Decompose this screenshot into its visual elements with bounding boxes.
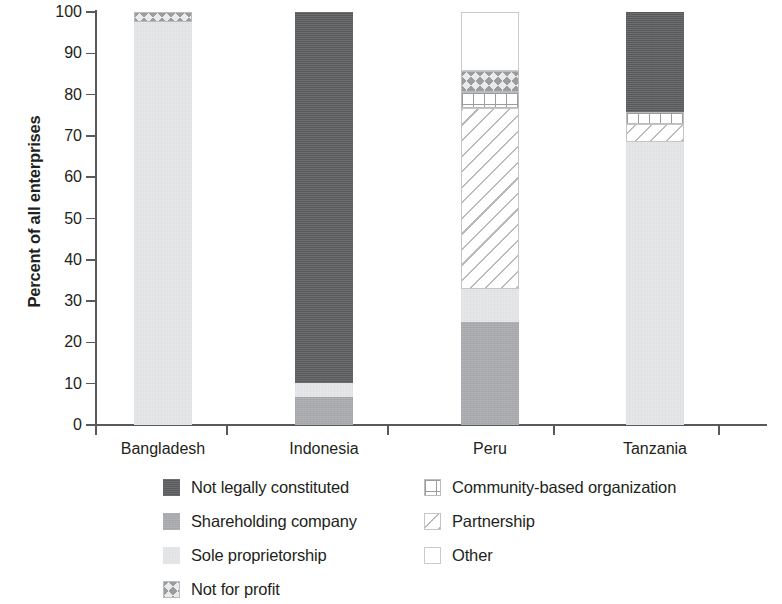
bar-segment xyxy=(461,108,519,289)
legend-swatch-icon xyxy=(163,513,180,530)
legend-item[interactable]: Other xyxy=(424,546,493,565)
y-axis-tick-label: 0 xyxy=(40,416,82,434)
legend-item[interactable]: Partnership xyxy=(424,512,535,531)
y-axis-tick xyxy=(86,135,95,137)
x-axis-tick xyxy=(387,426,389,435)
bar-tanzania xyxy=(626,12,684,425)
y-axis-tick xyxy=(86,342,95,344)
y-axis-tick-label: 60 xyxy=(40,168,82,186)
legend-label: Partnership xyxy=(452,512,535,531)
x-axis-tick xyxy=(718,426,720,435)
chart-legend: Not legally constitutedCommunity-based o… xyxy=(0,470,782,604)
y-axis-tick xyxy=(86,218,95,220)
bar-segment xyxy=(295,397,353,425)
y-axis-tick-label: 40 xyxy=(40,251,82,269)
y-axis-tick-label: 30 xyxy=(40,292,82,310)
x-axis-tick-origin xyxy=(95,426,97,435)
legend-swatch-icon xyxy=(163,547,180,564)
legend-item[interactable]: Not for profit xyxy=(163,580,280,599)
legend-swatch-icon xyxy=(163,581,180,598)
legend-item[interactable]: Sole proprietorship xyxy=(163,546,327,565)
y-axis-tick xyxy=(86,259,95,261)
legend-item[interactable]: Community-based organization xyxy=(424,478,676,497)
bar-segment xyxy=(626,112,684,124)
bar-segment xyxy=(461,71,519,92)
legend-label: Not legally constituted xyxy=(191,478,349,497)
x-axis-label-bangladesh: Bangladesh xyxy=(83,440,243,458)
y-axis-tick-label: 90 xyxy=(40,44,82,62)
legend-item[interactable]: Not legally constituted xyxy=(163,478,349,497)
legend-label: Not for profit xyxy=(191,580,280,599)
y-axis-tick xyxy=(86,53,95,55)
legend-label: Other xyxy=(452,546,493,565)
x-axis-label-indonesia: Indonesia xyxy=(244,440,404,458)
y-axis-tick xyxy=(86,424,95,426)
x-axis-tick xyxy=(226,426,228,435)
legend-swatch-icon xyxy=(424,479,441,496)
y-axis-tick xyxy=(86,300,95,302)
y-axis-tick-label: 10 xyxy=(40,375,82,393)
y-axis-tick-label: 20 xyxy=(40,333,82,351)
y-axis-tick-label: 70 xyxy=(40,127,82,145)
bar-segment xyxy=(295,12,353,383)
y-axis-tick-label: 50 xyxy=(40,210,82,228)
bar-segment xyxy=(626,12,684,112)
bar-peru xyxy=(461,12,519,425)
y-axis-tick xyxy=(86,383,95,385)
stacked-bar-chart: Percent of all enterprises 0102030405060… xyxy=(0,0,782,604)
y-axis-tick xyxy=(86,94,95,96)
legend-swatch-icon xyxy=(424,547,441,564)
x-axis-label-tanzania: Tanzania xyxy=(575,440,735,458)
y-axis-tick-label: 100 xyxy=(40,3,82,21)
bar-segment xyxy=(134,12,192,22)
bar-indonesia xyxy=(295,12,353,425)
bar-segment xyxy=(626,124,684,142)
legend-label: Shareholding company xyxy=(191,512,357,531)
x-axis-tick xyxy=(553,426,555,435)
bar-segment xyxy=(461,322,519,425)
bar-segment xyxy=(461,92,519,108)
bar-segment xyxy=(295,383,353,397)
bar-segment xyxy=(461,12,519,71)
legend-label: Community-based organization xyxy=(452,478,676,497)
legend-swatch-icon xyxy=(163,479,180,496)
y-axis-tick xyxy=(86,176,95,178)
x-axis-label-peru: Peru xyxy=(410,440,570,458)
bar-bangladesh xyxy=(134,12,192,425)
bar-segment xyxy=(461,289,519,322)
legend-item[interactable]: Shareholding company xyxy=(163,512,357,531)
y-axis-tick xyxy=(86,11,95,13)
legend-label: Sole proprietorship xyxy=(191,546,327,565)
bar-segment xyxy=(134,22,192,425)
plot-area xyxy=(96,12,760,425)
y-axis-tick-label: 80 xyxy=(40,86,82,104)
legend-swatch-icon xyxy=(424,513,441,530)
bar-segment xyxy=(626,142,684,425)
